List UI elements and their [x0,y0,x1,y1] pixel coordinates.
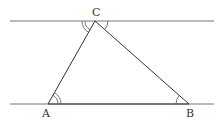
angle-c-right-arc [105,21,108,30]
label-c: C [92,6,100,19]
angle-a-arc-inner [53,95,58,104]
side-ac [48,21,95,104]
angle-c-left-arc-inner [85,21,90,30]
label-a: A [41,107,51,120]
angle-b-arc [176,95,179,104]
triangle-diagram: C A B [0,0,223,124]
side-cb [95,21,189,104]
label-b: B [186,107,194,120]
